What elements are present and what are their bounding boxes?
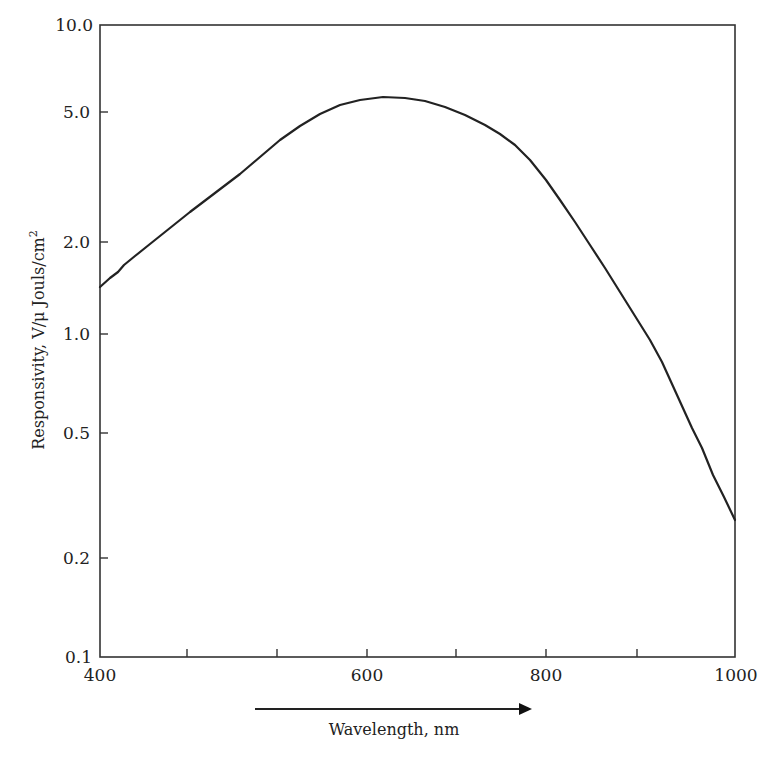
- plot-frame: [100, 25, 735, 657]
- y-axis-title: Responsivity, V/μ Jouls/cm2: [27, 230, 48, 450]
- x-axis-labels: 400 600 800 1000: [84, 665, 758, 685]
- x-label-1000: 1000: [714, 665, 757, 685]
- x-axis-title: Wavelength, nm: [329, 720, 460, 739]
- y-label-05: 0.5: [63, 423, 90, 443]
- x-label-400: 400: [84, 665, 116, 685]
- y-label-02: 0.2: [63, 548, 90, 568]
- y-axis-title-superscript: 2: [27, 230, 40, 237]
- responsivity-curve: [100, 97, 735, 520]
- y-axis-labels: 10.0 5.0 2.0 1.0 0.5 0.2 0.1: [55, 15, 93, 667]
- y-label-1: 1.0: [63, 324, 90, 344]
- y-axis-ticks: [100, 112, 108, 558]
- y-label-10: 10.0: [55, 15, 93, 35]
- y-label-5: 5.0: [63, 102, 90, 122]
- x-axis-ticks: [187, 649, 637, 657]
- y-label-01: 0.1: [65, 647, 92, 667]
- y-axis-title-main: Responsivity, V/μ Jouls/cm: [29, 237, 48, 450]
- wavelength-arrow-icon: [255, 703, 532, 715]
- responsivity-chart: 10.0 5.0 2.0 1.0 0.5 0.2 0.1 400 600 800…: [0, 0, 776, 760]
- x-label-800: 800: [530, 665, 562, 685]
- y-label-2: 2.0: [63, 232, 90, 252]
- x-label-600: 600: [351, 665, 383, 685]
